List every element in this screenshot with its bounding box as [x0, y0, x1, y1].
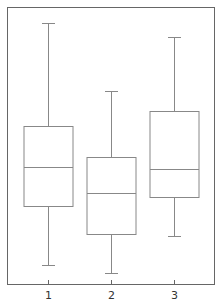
x-tick-label: 2	[108, 289, 115, 302]
x-tick-label: 1	[45, 289, 52, 302]
box-plot-chart: 123	[0, 0, 224, 305]
x-tick-label: 3	[171, 289, 178, 302]
